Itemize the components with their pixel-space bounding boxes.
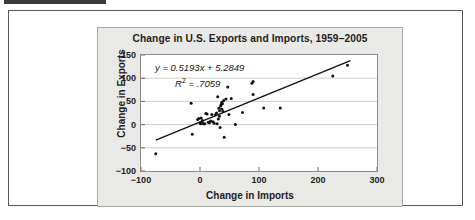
data-point [234,123,237,126]
r-squared-annotation: R2 = .7059 [175,77,220,89]
r-squared-value: = .7059 [188,78,220,89]
data-point [210,113,213,116]
data-point [226,86,229,89]
x-tick-label: 100 [239,175,279,185]
plot-area: y = 0.5193x + 5.2849 R2 = .7059 [140,54,378,172]
y-tick-label: 50 [102,96,136,106]
data-point [262,106,265,109]
data-point [216,95,219,98]
data-point [203,122,206,125]
x-tick-label: 300 [357,175,397,185]
data-point [224,98,227,101]
data-point [215,112,218,115]
x-axis-title: Change in Imports [98,190,402,201]
data-point [241,111,244,114]
data-point [223,136,226,139]
data-point [219,126,222,129]
data-point [346,64,349,67]
data-point [217,118,220,121]
y-tick-label: 0 [102,120,136,130]
data-point [190,102,193,105]
x-tick-label: −100 [121,175,161,185]
y-axis-ticks: 150100500−50−100 [98,54,136,172]
r-squared-symbol: R [175,78,182,89]
header-rule [4,0,106,4]
y-tick-label: 100 [102,73,136,83]
data-point [191,133,194,136]
data-point [216,122,219,125]
data-point [213,122,216,125]
data-point [252,93,255,96]
data-point [331,74,334,77]
y-tick-label: 150 [102,50,136,60]
y-tick-label: −50 [102,143,136,153]
r-squared-exponent: 2 [182,77,186,84]
chart-title: Change in U.S. Exports and Imports, 1959… [98,33,402,44]
data-point [206,112,209,115]
chart-panel: Change in U.S. Exports and Imports, 1959… [97,27,403,207]
x-tick-label: 0 [180,175,220,185]
data-point [230,97,233,100]
data-point [221,102,224,105]
x-tick-label: 200 [298,175,338,185]
data-point [218,115,221,118]
x-axis-ticks: −1000100200300 [140,175,378,189]
data-point [252,80,255,83]
data-point [227,113,230,116]
figure-card: Change in U.S. Exports and Imports, 1959… [8,10,463,206]
regression-equation: y = 0.5193x + 5.2849 [155,62,244,73]
data-point [279,106,282,109]
data-point [154,152,157,155]
data-point [222,110,225,113]
screenshot-root: Change in U.S. Exports and Imports, 1959… [0,0,475,220]
data-point [201,119,204,122]
